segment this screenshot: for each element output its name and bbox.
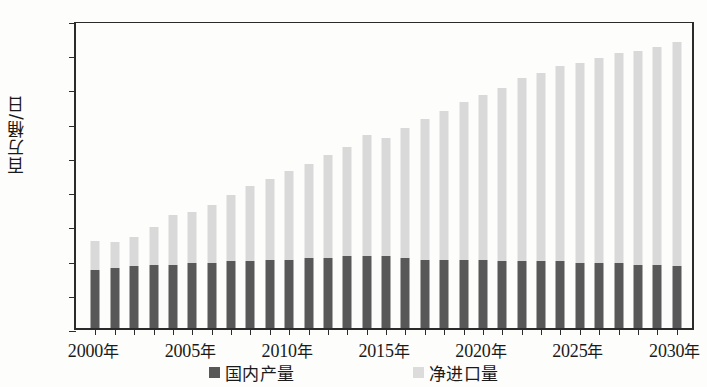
bar-2021[interactable] <box>498 88 507 328</box>
x-axis-tick <box>405 328 406 335</box>
bar-segment-domestic-production <box>401 258 410 328</box>
x-axis-tick <box>115 328 116 335</box>
y-axis-tick <box>69 126 76 127</box>
x-axis-tick <box>560 328 561 335</box>
bar-2030[interactable] <box>672 42 681 328</box>
bar-2005[interactable] <box>188 212 197 328</box>
bar-segment-domestic-production <box>323 258 332 328</box>
y-axis-tick <box>69 194 76 195</box>
x-axis-tick <box>502 328 503 335</box>
x-axis-tick-label-2005: 2005年 <box>165 338 216 362</box>
bar-2020[interactable] <box>478 95 487 328</box>
bar-segment-domestic-production <box>188 263 197 328</box>
legend-item-net-imports[interactable]: 净进口量 <box>413 360 499 385</box>
y-axis-tick <box>69 23 76 24</box>
bar-segment-domestic-production <box>343 256 352 328</box>
legend-label-domestic-production: 国内产量 <box>225 360 295 385</box>
bar-2009[interactable] <box>265 179 274 328</box>
bar-segment-domestic-production <box>614 263 623 328</box>
y-axis-tick <box>69 263 76 264</box>
bar-2012[interactable] <box>323 155 332 328</box>
bar-2008[interactable] <box>246 186 255 328</box>
bar-segment-net-imports <box>168 215 177 265</box>
chart-legend: 国内产量 净进口量 <box>0 360 707 385</box>
bar-2000[interactable] <box>91 241 100 328</box>
legend-swatch-domestic-production-icon <box>209 367 220 378</box>
bar-2018[interactable] <box>440 111 449 328</box>
bar-2026[interactable] <box>595 58 604 328</box>
bar-2014[interactable] <box>362 135 371 328</box>
bar-segment-net-imports <box>440 111 449 260</box>
bar-2029[interactable] <box>653 47 662 328</box>
x-axis-tick <box>580 328 581 335</box>
bar-2028[interactable] <box>633 51 642 328</box>
bar-2017[interactable] <box>420 119 429 328</box>
x-axis-tick <box>657 328 658 335</box>
bar-2023[interactable] <box>537 73 546 328</box>
bar-2015[interactable] <box>382 138 391 328</box>
bar-segment-domestic-production <box>459 260 468 328</box>
bar-2024[interactable] <box>556 66 565 328</box>
bar-segment-domestic-production <box>537 261 546 328</box>
x-axis-tick <box>638 328 639 335</box>
bar-segment-net-imports <box>420 119 429 259</box>
bar-2019[interactable] <box>459 102 468 328</box>
bar-segment-net-imports <box>188 212 197 263</box>
legend-item-domestic-production[interactable]: 国内产量 <box>209 360 295 385</box>
bar-segment-net-imports <box>304 164 313 258</box>
bar-2006[interactable] <box>207 205 216 328</box>
x-axis-tick <box>386 328 387 335</box>
x-axis-tick <box>134 328 135 335</box>
bar-segment-domestic-production <box>517 261 526 328</box>
bar-2003[interactable] <box>149 227 158 328</box>
bar-2011[interactable] <box>304 164 313 328</box>
x-axis-tick <box>231 328 232 335</box>
x-axis-tick <box>619 328 620 335</box>
bar-segment-domestic-production <box>362 256 371 328</box>
bar-segment-net-imports <box>478 95 487 259</box>
x-axis-tick-label-2025: 2025年 <box>552 338 603 362</box>
bar-segment-net-imports <box>382 138 391 256</box>
bar-2013[interactable] <box>343 147 352 328</box>
bar-2004[interactable] <box>168 215 177 328</box>
bar-2022[interactable] <box>517 78 526 328</box>
x-axis-tick <box>599 328 600 335</box>
bar-segment-net-imports <box>459 102 468 259</box>
bar-2025[interactable] <box>575 63 584 328</box>
bar-2016[interactable] <box>401 128 410 328</box>
legend-swatch-net-imports-icon <box>413 367 424 378</box>
bar-segment-domestic-production <box>556 261 565 328</box>
y-axis-tick <box>69 297 76 298</box>
x-axis-tick <box>347 328 348 335</box>
bar-segment-domestic-production <box>149 265 158 328</box>
x-axis-tick <box>464 328 465 335</box>
x-axis-tick <box>444 328 445 335</box>
bar-segment-domestic-production <box>246 261 255 328</box>
bar-segment-net-imports <box>130 237 139 266</box>
bar-segment-net-imports <box>556 66 565 261</box>
bar-segment-domestic-production <box>168 265 177 328</box>
y-axis-tick <box>69 91 76 92</box>
y-axis-tick <box>69 331 76 332</box>
bar-segment-domestic-production <box>130 266 139 328</box>
bar-segment-net-imports <box>362 135 371 256</box>
bar-segment-domestic-production <box>440 260 449 328</box>
y-axis-tick <box>69 57 76 58</box>
bar-segment-net-imports <box>91 241 100 270</box>
bar-2001[interactable] <box>110 242 119 328</box>
x-axis-tick-label-2020: 2020年 <box>455 338 506 362</box>
bar-segment-net-imports <box>595 58 604 263</box>
bar-segment-net-imports <box>227 195 236 262</box>
bar-2010[interactable] <box>285 171 294 328</box>
bar-segment-net-imports <box>575 63 584 263</box>
bar-segment-net-imports <box>149 227 158 265</box>
bar-2027[interactable] <box>614 53 623 328</box>
y-axis-tick <box>69 160 76 161</box>
bar-segment-net-imports <box>285 171 294 260</box>
bar-segment-net-imports <box>498 88 507 261</box>
bar-2007[interactable] <box>227 195 236 328</box>
x-axis-tick <box>483 328 484 335</box>
bar-2002[interactable] <box>130 237 139 328</box>
bar-segment-domestic-production <box>498 261 507 328</box>
x-axis-tick <box>425 328 426 335</box>
